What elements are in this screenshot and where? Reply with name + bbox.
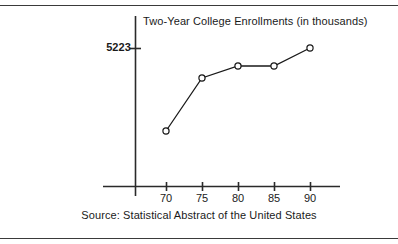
chart-title: Two-Year College Enrollments (in thousan… — [143, 15, 368, 27]
data-point-marker — [199, 75, 205, 81]
y-axis-tick-label: 5223 — [99, 41, 131, 53]
x-axis-tick-label: 70 — [151, 192, 181, 204]
data-point-marker — [163, 128, 169, 134]
chart-figure: Two-Year College Enrollments (in thousan… — [0, 0, 398, 244]
data-series-line — [166, 48, 310, 131]
source-caption: Source: Statistical Abstract of the Unit… — [0, 209, 398, 221]
x-axis-tick-label: 80 — [223, 192, 253, 204]
x-axis-tick-label: 75 — [187, 192, 217, 204]
line-chart-plot — [0, 0, 398, 244]
x-axis-tick-label: 85 — [259, 192, 289, 204]
data-point-marker — [235, 63, 241, 69]
data-point-marker — [271, 63, 277, 69]
x-axis-tick-label: 90 — [295, 192, 325, 204]
data-point-marker — [307, 45, 313, 51]
